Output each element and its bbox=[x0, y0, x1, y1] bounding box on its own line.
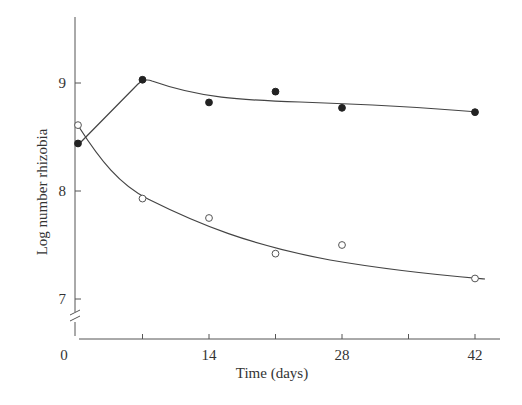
y-tick-label: 8 bbox=[59, 183, 67, 199]
open-data-point bbox=[272, 250, 279, 257]
open-series-curve bbox=[79, 127, 485, 279]
y-axis-label: Log number rhizobia bbox=[34, 128, 50, 255]
filled-data-point bbox=[139, 76, 146, 83]
x-tick-label: 28 bbox=[335, 347, 350, 363]
filled-data-point bbox=[75, 140, 82, 147]
filled-data-point bbox=[272, 88, 279, 95]
filled-data-point bbox=[472, 109, 479, 116]
open-data-point bbox=[206, 215, 213, 222]
open-data-point bbox=[339, 242, 346, 249]
y-tick-label: 9 bbox=[59, 75, 67, 91]
open-data-point bbox=[75, 122, 82, 129]
open-data-point bbox=[472, 275, 479, 282]
x-axis-label: Time (days) bbox=[236, 365, 308, 382]
x-tick-label: 14 bbox=[202, 347, 218, 363]
y-tick-label: 7 bbox=[59, 291, 67, 307]
y-axis bbox=[70, 17, 80, 336]
chart: 789 0142842 Log number rhizobia Time (da… bbox=[0, 0, 522, 405]
x-ticks: 0142842 bbox=[60, 334, 482, 363]
open-data-point bbox=[139, 195, 146, 202]
filled-data-point bbox=[206, 99, 213, 106]
y-ticks: 789 bbox=[59, 75, 82, 307]
x-tick-label: 0 bbox=[60, 347, 68, 363]
x-tick-label: 42 bbox=[468, 347, 483, 363]
filled-data-point bbox=[339, 104, 346, 111]
